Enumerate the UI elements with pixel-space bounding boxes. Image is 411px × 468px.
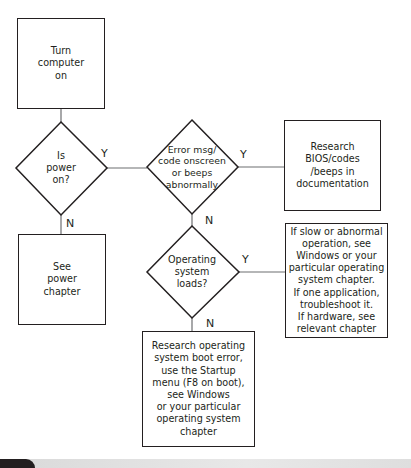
edge-label-yes: Y <box>101 148 108 159</box>
node-text-line: operation, see <box>289 238 385 250</box>
node-text-line: Windows or your <box>289 250 385 262</box>
node-text-line: chapter <box>152 426 245 438</box>
node-text-line: or beeps <box>158 167 226 179</box>
node-text-line: Error msg/ <box>158 144 226 156</box>
decision-text-power: Is power on? <box>21 140 101 196</box>
node-text-line: on <box>38 70 84 82</box>
node-text-line: Turn <box>38 45 84 57</box>
node-text-line: or your particular <box>152 401 245 413</box>
node-text-line: computer <box>38 57 84 69</box>
page-footer-tab <box>0 459 35 468</box>
node-os-loads-advice: If slow or abnormal operation, see Windo… <box>285 223 388 338</box>
node-text-line: loads? <box>168 278 216 290</box>
node-text-line: see Windows <box>152 389 245 401</box>
node-text-line: system <box>168 266 216 278</box>
node-text-line: particular operating <box>289 262 385 274</box>
decision-text-os: Operating system loads? <box>152 244 232 300</box>
node-see-power-chapter: See power chapter <box>18 234 106 325</box>
node-text-line: power <box>44 273 81 285</box>
node-text-line: Research operating <box>152 340 245 352</box>
node-text-line: documentation <box>296 178 369 190</box>
node-text-line: If one application, <box>289 287 385 299</box>
node-os-boot-error: Research operating system boot error, us… <box>142 331 255 447</box>
node-text-line: chapter <box>44 286 81 298</box>
node-turn-computer-on: Turn computer on <box>17 18 105 109</box>
node-text-line: menu (F8 on boot), <box>152 377 245 389</box>
node-text-line: use the Startup <box>152 365 245 377</box>
node-text-line: power <box>46 162 76 174</box>
node-text-line: system boot error, <box>152 352 245 364</box>
node-text-line: operating system <box>152 413 245 425</box>
node-text-line: Operating <box>168 254 216 266</box>
page-footer-bar <box>0 459 411 468</box>
node-text-line: If hardware, see <box>289 311 385 323</box>
edge-label-no: N <box>205 215 213 226</box>
node-text-line: relevant chapter <box>289 323 385 335</box>
node-text-line: Research <box>296 141 369 153</box>
decision-text-error: Error msg/ code onscreen or beeps abnorm… <box>146 139 238 195</box>
node-text-line: system chapter. <box>289 274 385 286</box>
edge-label-no: N <box>66 218 74 229</box>
node-text-line: Is <box>46 150 76 162</box>
node-text-line: troubleshoot it. <box>289 299 385 311</box>
edge-label-yes: Y <box>240 149 247 160</box>
node-research-bios: Research BIOS/codes /beeps in documentat… <box>284 120 381 211</box>
node-text-line: on? <box>46 174 76 186</box>
edge-label-no: N <box>206 318 214 329</box>
edge-label-yes: Y <box>242 254 249 265</box>
node-text-line: See <box>44 261 81 273</box>
node-text-line: code onscreen <box>158 155 226 167</box>
node-text-line: BIOS/codes <box>296 153 369 165</box>
node-text-line: abnormally <box>158 179 226 191</box>
node-text-line: /beeps in <box>296 166 369 178</box>
node-text-line: If slow or abnormal <box>289 226 385 238</box>
